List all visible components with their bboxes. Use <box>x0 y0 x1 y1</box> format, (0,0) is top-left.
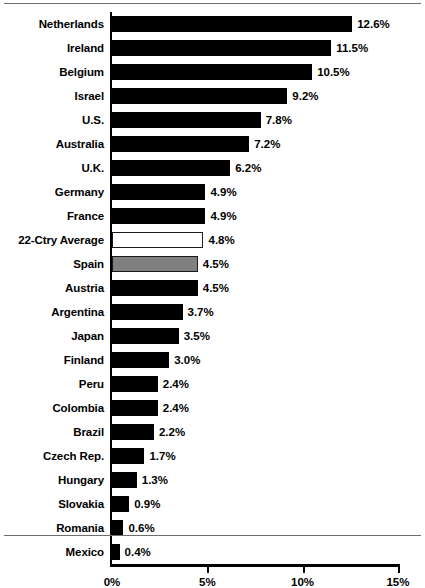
bar-value-label: 10.5% <box>317 64 350 80</box>
bar-track: 3.7% <box>112 300 425 324</box>
bar-track: 3.0% <box>112 348 425 372</box>
bar-value-label: 2.4% <box>163 376 189 392</box>
bar-row: Hungary1.3% <box>0 468 425 492</box>
bar <box>112 232 203 248</box>
bar-row: Australia7.2% <box>0 132 425 156</box>
bar-track: 2.4% <box>112 396 425 420</box>
bar-row: Argentina3.7% <box>0 300 425 324</box>
category-label: France <box>0 204 104 228</box>
category-label: Peru <box>0 372 104 396</box>
category-label: Austria <box>0 276 104 300</box>
bar <box>112 352 169 368</box>
category-label: U.K. <box>0 156 104 180</box>
bar-track: 2.4% <box>112 372 425 396</box>
bar-row: Czech Rep.1.7% <box>0 444 425 468</box>
bar-value-label: 6.2% <box>235 160 261 176</box>
category-label: Czech Rep. <box>0 444 104 468</box>
bar <box>112 520 123 536</box>
bar-value-label: 12.6% <box>357 16 390 32</box>
bar <box>112 112 261 128</box>
bar-value-label: 4.5% <box>203 280 229 296</box>
bar <box>112 160 230 176</box>
bar <box>112 328 179 344</box>
x-axis-tick-label: 5% <box>199 576 216 588</box>
category-label: U.S. <box>0 108 104 132</box>
category-label: Belgium <box>0 60 104 84</box>
bar <box>112 400 158 416</box>
bar-row: Mexico0.4% <box>0 540 425 564</box>
bar-row: Finland3.0% <box>0 348 425 372</box>
bar-track: 4.8% <box>112 228 425 252</box>
bar-row: Japan3.5% <box>0 324 425 348</box>
category-label: Finland <box>0 348 104 372</box>
bar-track: 7.8% <box>112 108 425 132</box>
category-label: Ireland <box>0 36 104 60</box>
bar-value-label: 0.9% <box>134 496 160 512</box>
bar-row: Belgium10.5% <box>0 60 425 84</box>
bar-value-label: 7.8% <box>266 112 292 128</box>
category-label: 22-Ctry Average <box>0 228 104 252</box>
bar <box>112 16 352 32</box>
bar-value-label: 9.2% <box>292 88 318 104</box>
bar <box>112 40 331 56</box>
bar-track: 1.3% <box>112 468 425 492</box>
bar-value-label: 11.5% <box>336 40 368 56</box>
bar-track: 10.5% <box>112 60 425 84</box>
category-label: Argentina <box>0 300 104 324</box>
bar-row: France4.9% <box>0 204 425 228</box>
bar-track: 9.2% <box>112 84 425 108</box>
bar-row: Colombia2.4% <box>0 396 425 420</box>
bar-value-label: 3.0% <box>174 352 200 368</box>
bar-track: 0.9% <box>112 492 425 516</box>
bar-row: Israel9.2% <box>0 84 425 108</box>
category-label: Colombia <box>0 396 104 420</box>
bar-track: 1.7% <box>112 444 425 468</box>
bar-track: 6.2% <box>112 156 425 180</box>
bar-track: 4.9% <box>112 204 425 228</box>
bar-value-label: 7.2% <box>254 136 280 152</box>
x-axis-end-tick <box>398 567 400 573</box>
bar-track: 3.5% <box>112 324 425 348</box>
category-label: Hungary <box>0 468 104 492</box>
bar-row: 22-Ctry Average4.8% <box>0 228 425 252</box>
bar-track: 4.9% <box>112 180 425 204</box>
bar <box>112 280 198 296</box>
bar <box>112 472 137 488</box>
bar <box>112 184 205 200</box>
bar-row: Romania0.6% <box>0 516 425 540</box>
bar-row: U.K.6.2% <box>0 156 425 180</box>
bar-value-label: 2.4% <box>163 400 189 416</box>
page-rule-top <box>4 3 421 4</box>
bar-track: 0.6% <box>112 516 425 540</box>
bar <box>112 208 205 224</box>
bar-track: 4.5% <box>112 252 425 276</box>
bar-value-label: 4.8% <box>208 232 234 248</box>
x-axis-tick-label: 10% <box>291 576 314 588</box>
bar <box>112 88 287 104</box>
bar <box>112 496 129 512</box>
bar-row: Slovakia0.9% <box>0 492 425 516</box>
bar-row: Germany4.9% <box>0 180 425 204</box>
bar <box>112 64 312 80</box>
bar-value-label: 1.3% <box>142 472 168 488</box>
bar-value-label: 3.7% <box>188 304 214 320</box>
category-label: Israel <box>0 84 104 108</box>
bar <box>112 448 144 464</box>
bar-value-label: 4.9% <box>210 184 236 200</box>
category-label: Germany <box>0 180 104 204</box>
bar-value-label: 2.2% <box>159 424 185 440</box>
category-label: Spain <box>0 252 104 276</box>
bar-value-label: 0.6% <box>128 520 154 536</box>
plot-area: Netherlands12.6%Ireland11.5%Belgium10.5%… <box>0 12 425 564</box>
category-label: Japan <box>0 324 104 348</box>
bar-value-label: 4.9% <box>210 208 236 224</box>
category-label: Romania <box>0 516 104 540</box>
category-label: Brazil <box>0 420 104 444</box>
page-rule-bottom <box>4 535 421 536</box>
bar-row: Brazil2.2% <box>0 420 425 444</box>
bar <box>112 424 154 440</box>
bar <box>112 304 183 320</box>
bar-value-label: 0.4% <box>125 544 151 560</box>
category-label: Netherlands <box>0 12 104 36</box>
